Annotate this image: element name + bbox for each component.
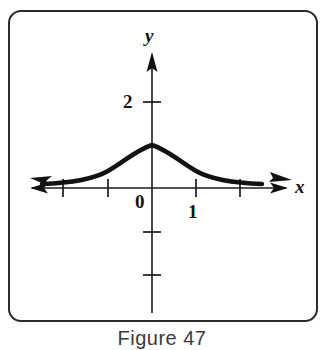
x-axis-label: x: [295, 177, 305, 196]
y-tick-label-two: 2: [123, 92, 133, 111]
curve-right-arrow-icon: [269, 172, 292, 182]
origin-label: 0: [135, 192, 145, 211]
figure-caption: Figure 47: [0, 327, 324, 350]
y-axis-label: y: [145, 26, 153, 45]
x-tick-label-one: 1: [188, 202, 198, 221]
